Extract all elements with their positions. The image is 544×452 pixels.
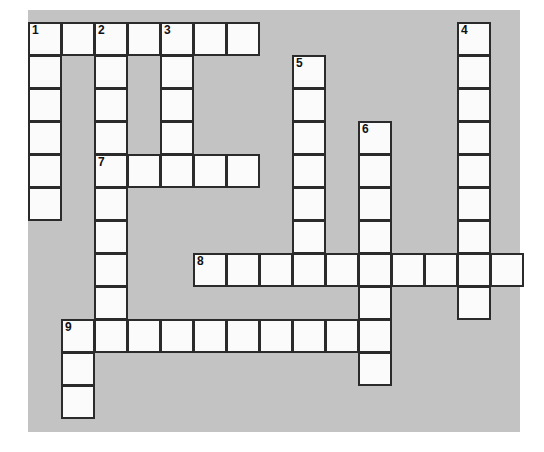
crossword-cell[interactable] [457, 220, 491, 254]
crossword-canvas: 123456789 [0, 0, 544, 452]
crossword-cell[interactable] [94, 286, 128, 320]
crossword-cell[interactable] [127, 22, 161, 56]
crossword-cell[interactable]: 2 [94, 22, 128, 56]
crossword-cell[interactable] [457, 154, 491, 188]
crossword-cell[interactable] [259, 253, 293, 287]
crossword-cell[interactable] [457, 55, 491, 89]
crossword-cell[interactable] [292, 154, 326, 188]
crossword-cell[interactable] [127, 319, 161, 353]
crossword-cell[interactable] [160, 88, 194, 122]
crossword-cell[interactable] [127, 154, 161, 188]
crossword-cell[interactable] [28, 88, 62, 122]
crossword-cell[interactable] [160, 121, 194, 155]
crossword-cell[interactable] [358, 286, 392, 320]
crossword-cell[interactable] [28, 55, 62, 89]
crossword-cell[interactable] [358, 352, 392, 386]
crossword-cell[interactable] [160, 154, 194, 188]
crossword-cell[interactable]: 3 [160, 22, 194, 56]
crossword-cell[interactable] [358, 319, 392, 353]
cell-number: 8 [197, 255, 204, 268]
cell-number: 4 [461, 24, 468, 37]
crossword-cell[interactable] [193, 319, 227, 353]
crossword-cell[interactable]: 8 [193, 253, 227, 287]
crossword-cell[interactable] [457, 286, 491, 320]
crossword-cell[interactable] [160, 319, 194, 353]
crossword-cell[interactable] [325, 253, 359, 287]
crossword-cell[interactable]: 7 [94, 154, 128, 188]
crossword-cell[interactable] [457, 187, 491, 221]
crossword-cell[interactable] [61, 22, 95, 56]
crossword-cell[interactable] [259, 319, 293, 353]
crossword-cell[interactable] [160, 55, 194, 89]
crossword-cell[interactable] [292, 253, 326, 287]
crossword-cell[interactable] [28, 154, 62, 188]
crossword-cell[interactable] [358, 187, 392, 221]
crossword-cell[interactable] [457, 121, 491, 155]
crossword-cell[interactable] [28, 121, 62, 155]
crossword-cell[interactable] [94, 88, 128, 122]
crossword-board: 123456789 [28, 10, 520, 432]
crossword-cell[interactable] [292, 220, 326, 254]
crossword-cell[interactable]: 6 [358, 121, 392, 155]
crossword-cell[interactable] [226, 319, 260, 353]
crossword-cell[interactable]: 1 [28, 22, 62, 56]
cell-number: 9 [65, 321, 72, 334]
cell-number: 7 [98, 156, 105, 169]
crossword-cell[interactable] [28, 187, 62, 221]
cell-number: 2 [98, 24, 105, 37]
crossword-cell[interactable]: 4 [457, 22, 491, 56]
crossword-cell[interactable] [226, 253, 260, 287]
crossword-cell[interactable] [94, 121, 128, 155]
crossword-cell[interactable] [457, 253, 491, 287]
cell-number: 5 [296, 57, 303, 70]
crossword-grid[interactable]: 123456789 [28, 10, 520, 432]
cell-number: 6 [362, 123, 369, 136]
crossword-cell[interactable] [490, 253, 524, 287]
crossword-cell[interactable] [61, 385, 95, 419]
crossword-cell[interactable]: 9 [61, 319, 95, 353]
crossword-cell[interactable] [358, 220, 392, 254]
crossword-cell[interactable] [94, 253, 128, 287]
crossword-cell[interactable] [226, 154, 260, 188]
crossword-cell[interactable] [391, 253, 425, 287]
crossword-cell[interactable] [358, 253, 392, 287]
crossword-cell[interactable] [292, 121, 326, 155]
crossword-cell[interactable] [94, 220, 128, 254]
crossword-cell[interactable] [226, 22, 260, 56]
crossword-cell[interactable] [193, 154, 227, 188]
crossword-cell[interactable] [325, 319, 359, 353]
crossword-cell[interactable] [94, 187, 128, 221]
cell-number: 3 [164, 24, 171, 37]
crossword-cell[interactable] [424, 253, 458, 287]
crossword-cell[interactable] [61, 352, 95, 386]
crossword-cell[interactable] [94, 319, 128, 353]
crossword-cell[interactable] [94, 55, 128, 89]
cell-number: 1 [32, 24, 39, 37]
crossword-cell[interactable] [457, 88, 491, 122]
crossword-cell[interactable] [292, 187, 326, 221]
crossword-cell[interactable] [292, 319, 326, 353]
crossword-cell[interactable] [193, 22, 227, 56]
crossword-cell[interactable] [292, 88, 326, 122]
crossword-cell[interactable]: 5 [292, 55, 326, 89]
crossword-cell[interactable] [358, 154, 392, 188]
